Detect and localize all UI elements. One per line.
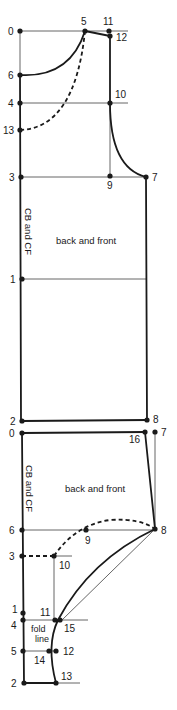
label-8: 8	[153, 414, 159, 425]
point-9	[83, 527, 88, 532]
point-16	[142, 429, 147, 434]
point-7	[143, 174, 148, 179]
point-4	[20, 617, 25, 622]
label-10: 10	[115, 89, 127, 100]
label-1: 1	[12, 604, 18, 615]
side-label-cb-cf: CB and CF	[24, 465, 35, 512]
point-13	[53, 680, 58, 685]
label-3: 3	[9, 551, 15, 562]
label-11: 11	[40, 607, 51, 618]
point-15	[57, 617, 62, 622]
lower-construction-lines	[22, 432, 155, 683]
label-15: 15	[64, 623, 76, 634]
label-9: 9	[85, 535, 91, 546]
label-7: 7	[152, 172, 158, 183]
back-neck-curve	[20, 31, 85, 75]
lower-outline	[22, 432, 155, 683]
point-8	[152, 526, 157, 531]
label-2: 2	[11, 678, 17, 689]
lower-points	[19, 429, 157, 685]
point-9	[107, 173, 112, 178]
point-1	[19, 276, 24, 281]
label-12: 12	[116, 32, 128, 43]
point-14	[46, 648, 51, 653]
label-6: 6	[8, 70, 14, 81]
label-13: 13	[61, 671, 73, 682]
point-11	[52, 617, 57, 622]
label-0: 0	[8, 26, 14, 37]
label-2: 2	[10, 416, 16, 427]
label-4: 4	[8, 98, 14, 109]
point-6	[19, 527, 24, 532]
piece-name: back and front	[65, 483, 126, 494]
label-10: 10	[59, 560, 71, 571]
label-12: 12	[63, 646, 75, 657]
point-10	[107, 100, 112, 105]
point-12	[107, 33, 112, 38]
armhole-curve	[110, 103, 146, 177]
label-5: 5	[11, 646, 17, 657]
side-seam	[146, 177, 147, 420]
lower-piece: 0 16 7 6 9 8 3 10 1 4 11 15 5 14 12 2 13…	[9, 427, 167, 689]
label-1: 1	[10, 274, 16, 285]
point-1	[20, 610, 25, 615]
point-6	[17, 72, 22, 77]
point-0	[19, 430, 24, 435]
label-0: 0	[9, 428, 15, 439]
fold-label-line1: fold	[31, 624, 46, 634]
label-11: 11	[103, 16, 114, 27]
point-12	[53, 648, 58, 653]
point-10	[51, 553, 56, 558]
pattern-diagram: 0 5 11 12 6 4 10 13 3 9 7 1 2 8 CB and C…	[0, 0, 177, 710]
point-8	[144, 417, 149, 422]
point-2	[21, 680, 26, 685]
point-7	[152, 429, 157, 434]
hem-line	[22, 420, 147, 421]
label-7: 7	[161, 427, 167, 438]
straight-guide-15-8	[62, 529, 155, 620]
shoulder-line	[85, 31, 110, 36]
side-label-cb-cf: CB and CF	[23, 208, 34, 255]
bodice-outline	[20, 31, 147, 421]
point-5	[82, 28, 87, 33]
point-5	[20, 648, 25, 653]
label-14: 14	[34, 655, 46, 666]
piece-name: back and front	[56, 235, 117, 246]
center-line	[20, 75, 21, 421]
point-3	[18, 174, 23, 179]
label-8: 8	[161, 525, 167, 536]
top-edge	[22, 432, 145, 433]
label-13: 13	[3, 125, 15, 136]
point-11	[106, 28, 111, 33]
label-9: 9	[107, 180, 113, 191]
bodice-piece: 0 5 11 12 6 4 10 13 3 9 7 1 2 8 CB and C…	[3, 16, 159, 427]
label-6: 6	[9, 525, 15, 536]
front-neck-curve-dashed	[20, 31, 85, 130]
label-16: 16	[129, 434, 141, 445]
bodice-points	[17, 28, 149, 423]
label-3: 3	[9, 172, 15, 183]
point-13	[17, 127, 22, 132]
fold-label-line2: line	[35, 634, 49, 644]
point-2	[19, 418, 24, 423]
label-5: 5	[81, 16, 87, 27]
point-0	[17, 28, 22, 33]
label-4: 4	[11, 620, 17, 631]
line-16-8	[145, 432, 155, 529]
point-3	[19, 553, 24, 558]
point-4	[17, 100, 22, 105]
